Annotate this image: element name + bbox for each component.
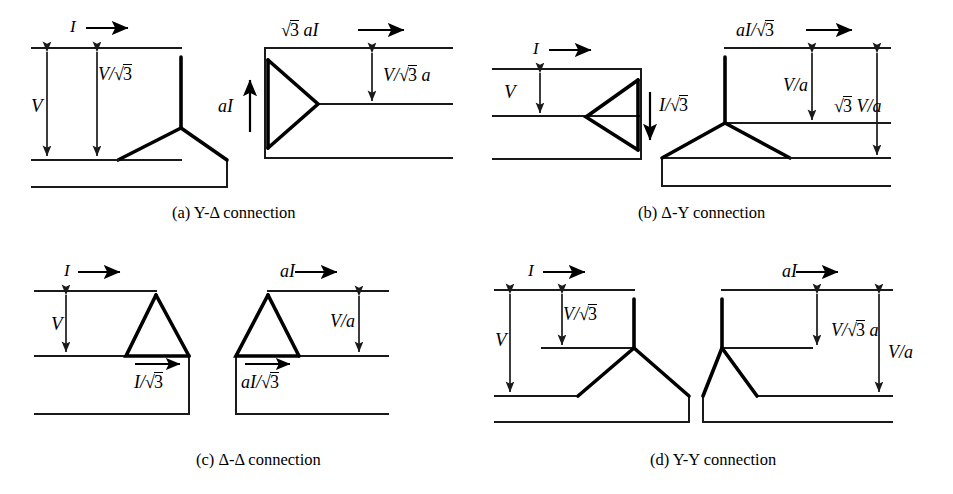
panel-c-label-Iphase: I/√3 [134, 372, 163, 391]
panel-d-caption: (d) Y-Y connection [650, 450, 776, 470]
panel-a-label-Vsec: V/√3 a [383, 65, 430, 84]
panel-c-label-sec-Iphase: aI/√3 [241, 372, 279, 391]
figure-root: I V V/√3 √3 aI aI V/√3 a (a) Y-Δ connect… [0, 0, 953, 494]
panel-a-label-V: V [31, 96, 43, 115]
panel-c-secondary-delta [236, 291, 388, 414]
panel-b-secondary-wye [662, 48, 890, 186]
panel-b-label-primary-current: I [533, 40, 539, 57]
panel-b-label-Vphase: V/a [783, 76, 808, 94]
panel-b-label-Iphase: I/√3 [659, 95, 688, 114]
panel-c-label-Vsec: V/a [330, 312, 355, 330]
panel-b-caption: (b) Δ-Y connection [638, 203, 765, 223]
panel-a-caption: (a) Y-Δ connection [172, 203, 296, 223]
panel-d-label-Vsec-phase: V/√3 a [831, 320, 878, 339]
panel-d-secondary-wye [703, 290, 892, 422]
panel-d-label-Vphase: V/√3 [563, 304, 597, 323]
panel-b-label-secondary-current: aI/√3 [736, 20, 774, 39]
panel-d-label-secondary-current: aI [782, 262, 797, 280]
panel-c-label-secondary-current: aI [280, 262, 295, 280]
panel-c-label-primary-current: I [64, 262, 70, 279]
panel-b-label-V: V [504, 82, 516, 101]
panel-d-label-primary-current: I [528, 262, 534, 279]
panel-a-label-Vphase: V/√3 [98, 64, 132, 83]
panel-a-label-aI: aI [218, 97, 233, 115]
panel-d-label-V: V [495, 330, 507, 349]
panel-c-primary-delta [35, 291, 189, 414]
panel-c-caption: (c) Δ-Δ connection [196, 450, 321, 470]
panel-c-label-V: V [51, 314, 63, 333]
panel-a-label-primary-current: I [70, 18, 76, 35]
panel-b-label-Vline: √3 V/a [834, 96, 881, 115]
panel-a-label-secondary-current: √3 aI [281, 20, 318, 39]
diagram-canvas [0, 0, 953, 494]
panel-d-label-Vsec-line: V/a [888, 343, 913, 361]
